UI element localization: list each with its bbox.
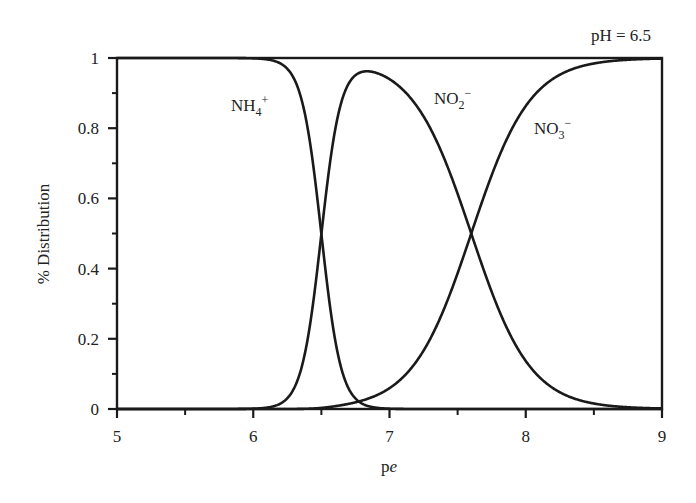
- y-tick-label: 0.8: [78, 119, 99, 138]
- x-tick-label: 9: [658, 427, 667, 446]
- y-tick-label: 1: [91, 49, 100, 68]
- ph-annotation: pH = 6.5: [591, 26, 651, 45]
- plot-frame: [117, 58, 662, 409]
- curve-no2: [117, 71, 662, 409]
- series-label-no2: NO2−: [434, 86, 472, 112]
- y-tick-label: 0.4: [78, 260, 100, 279]
- x-tick-label: 8: [522, 427, 531, 446]
- x-axis-title: pe: [381, 457, 398, 476]
- x-tick-label: 5: [113, 427, 122, 446]
- series-label-nh4: NH4+: [231, 93, 269, 119]
- speciation-chart: 5678900.20.40.60.81 pH = 6.5 pe % Distri…: [0, 0, 696, 503]
- curve-nh4: [117, 58, 662, 409]
- axes: 5678900.20.40.60.81: [78, 49, 667, 446]
- series-curves: [117, 58, 662, 409]
- x-tick-label: 7: [385, 427, 394, 446]
- y-tick-label: 0.6: [78, 189, 99, 208]
- series-label-no3: NO3−: [534, 116, 572, 142]
- curve-no3: [117, 59, 662, 409]
- y-tick-label: 0: [91, 400, 100, 419]
- x-tick-label: 6: [249, 427, 258, 446]
- y-tick-label: 0.2: [78, 330, 99, 349]
- y-axis-title: % Distribution: [34, 183, 53, 284]
